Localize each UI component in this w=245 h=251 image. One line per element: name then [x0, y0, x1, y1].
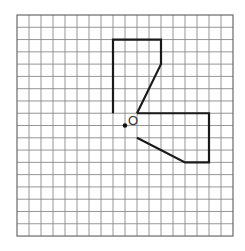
center-point-dot [123, 123, 128, 128]
rotation-grid-diagram: O [0, 0, 245, 251]
center-point-label: O [128, 113, 138, 128]
